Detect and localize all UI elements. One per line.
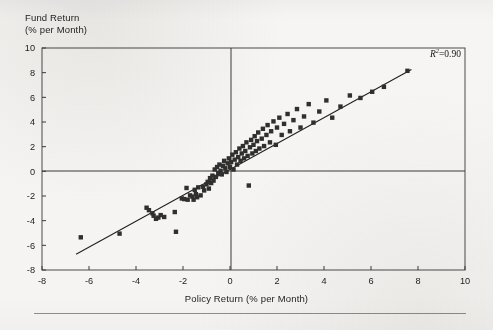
data-point [186,198,190,202]
x-tick-label: 8 [415,276,420,286]
y-tick-label: 8 [30,68,35,78]
data-point [256,130,260,134]
data-point [243,149,247,153]
footer-rule [34,313,466,314]
data-point [224,170,228,174]
data-point [370,90,374,94]
y-tick-label: 6 [30,93,35,103]
data-point [358,96,362,100]
data-point [268,140,272,144]
data-point [255,139,259,143]
data-point [330,115,334,119]
y-tick-label: -2 [27,191,35,201]
data-point [275,125,279,129]
y-axis-ticks [42,48,46,270]
data-point [324,98,328,102]
figure-canvas: Fund Return(% per Month) -8-6-4-20246810… [0,0,493,330]
y-tick-label: 4 [30,117,35,127]
y-tick-label: 0 [30,167,35,177]
x-tick-label: 10 [460,276,470,286]
data-point [174,230,178,234]
y-tick-label: 10 [25,43,35,53]
data-point [348,93,352,97]
y-tick-label: -6 [27,241,35,251]
plot-frame [42,48,465,270]
data-point [117,231,121,235]
data-point [285,112,289,116]
r-squared-value: =0.90 [439,49,461,59]
data-point [280,133,284,137]
x-tick-label: 2 [274,276,279,286]
data-point [184,186,188,190]
x-tick-label: -8 [38,276,46,286]
data-point [202,188,206,192]
data-point [405,69,409,73]
data-point [261,127,265,131]
data-point [302,114,306,118]
x-tick-label: 4 [321,276,326,286]
data-point [260,136,264,140]
data-point [274,143,278,147]
data-point [196,185,200,189]
data-point [265,123,269,127]
data-point [277,115,281,119]
data-point [247,183,251,187]
y-tick-label: -4 [27,216,35,226]
data-point [311,120,315,124]
data-point [244,140,248,144]
data-point [262,144,266,148]
data-point [338,104,342,108]
data-point [269,129,273,133]
data-point [257,146,261,150]
x-axis-tick-labels: -8-6-4-20246810 [38,276,470,286]
zero-lines [42,48,465,270]
y-axis-tick-labels: -8-6-4-20246810 [25,43,35,275]
data-point [291,118,295,122]
data-point [207,186,211,190]
r-squared-annotation: R2=0.90 [430,47,461,59]
data-point [282,122,286,126]
y-tick-label: -8 [27,265,35,275]
data-point [173,210,177,214]
x-tick-label: -6 [85,276,93,286]
x-tick-label: 0 [227,276,232,286]
data-point [198,193,202,197]
x-tick-label: -4 [132,276,140,286]
data-point [79,235,83,239]
data-point [271,119,275,123]
scatter-plot: -8-6-4-20246810 -8-6-4-20246810 [0,0,493,330]
y-tick-label: 2 [30,142,35,152]
data-point [298,125,302,129]
x-axis-ticks [42,266,465,270]
x-tick-label: -2 [179,276,187,286]
data-point [317,109,321,113]
data-point [307,102,311,106]
data-point [220,172,224,176]
data-points [79,69,410,240]
data-point [288,129,292,133]
x-axis-title: Policy Return (% per Month) [0,293,493,305]
x-tick-label: 6 [368,276,373,286]
data-point [264,133,268,137]
data-point [231,167,235,171]
data-point [295,107,299,111]
data-point [162,215,166,219]
data-point [382,85,386,89]
data-point [245,154,249,158]
